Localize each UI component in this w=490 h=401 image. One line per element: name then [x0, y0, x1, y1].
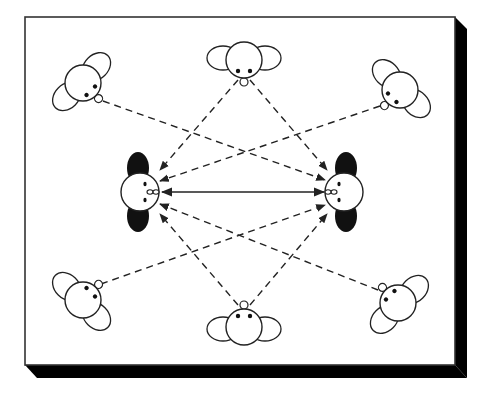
nose-icon — [240, 301, 248, 309]
nose-icon — [331, 190, 337, 194]
eye-icon — [248, 69, 252, 73]
head-icon — [226, 309, 262, 345]
room-diagram — [0, 0, 490, 401]
eye-icon — [143, 198, 146, 203]
eye-icon — [248, 314, 252, 318]
nose-icon — [240, 78, 248, 86]
head-icon — [226, 42, 262, 78]
diagram-stage — [0, 0, 490, 401]
eye-icon — [236, 314, 240, 318]
eye-icon — [143, 182, 146, 187]
nose-icon — [147, 190, 153, 194]
nose-icon — [153, 190, 159, 194]
nose-icon — [325, 190, 331, 194]
eye-icon — [337, 182, 340, 187]
eye-icon — [236, 69, 240, 73]
eye-icon — [337, 198, 340, 203]
